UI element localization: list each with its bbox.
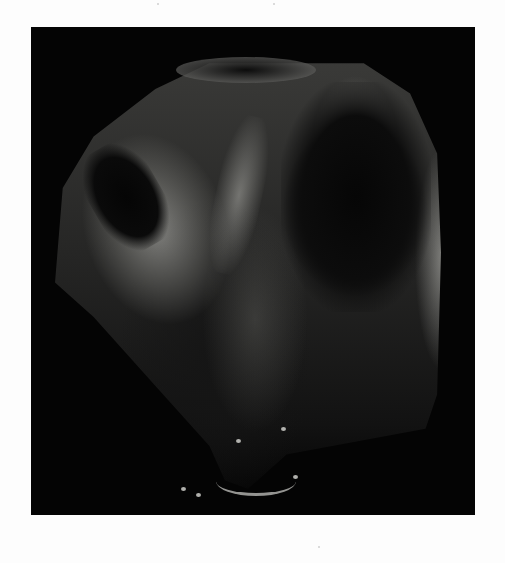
mineral-speck	[196, 493, 201, 497]
scan-speck	[318, 546, 320, 548]
right-cavity	[281, 82, 431, 312]
stone-photograph	[31, 27, 475, 515]
lower-rim-highlight	[216, 467, 296, 496]
mineral-speck	[281, 427, 286, 431]
mineral-speck	[236, 439, 241, 443]
stone-top-depression	[176, 57, 316, 83]
scan-speck	[273, 3, 275, 5]
mineral-speck	[181, 487, 186, 491]
mineral-speck	[293, 475, 298, 479]
scan-speck	[157, 3, 159, 5]
